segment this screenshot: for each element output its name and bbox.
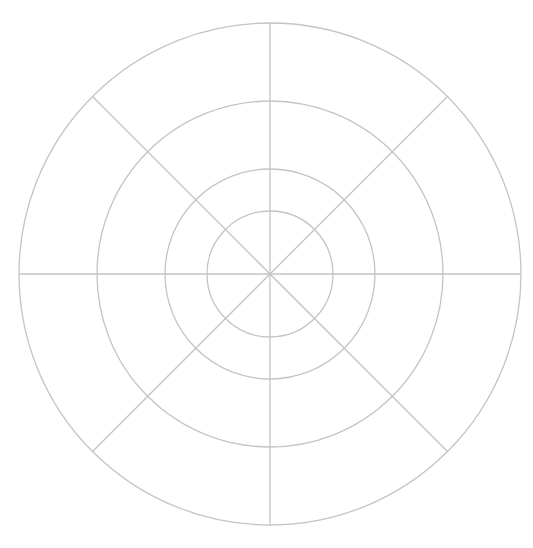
polar-grid-diagram xyxy=(0,0,533,548)
radial-spokes xyxy=(19,23,521,525)
